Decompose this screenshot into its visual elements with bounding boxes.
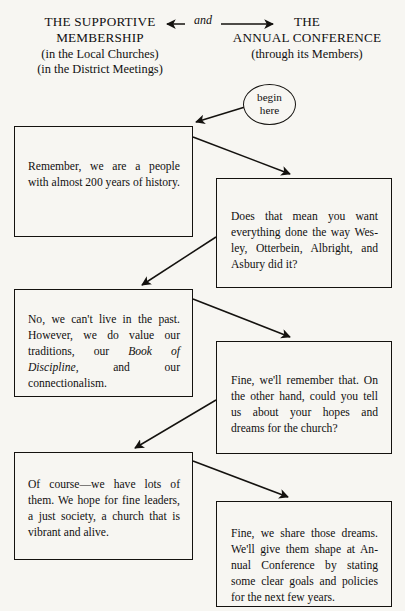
flowchart-page: THE SUPPORTIVE MEMBERSHIP (in the Local …: [0, 0, 405, 611]
flow-box-6: Fine, we share those dreams. We'll give …: [216, 501, 392, 607]
begin-here-node: begin here: [243, 84, 296, 125]
flow-box-2: Does that mean you want everything done …: [216, 178, 392, 288]
begin-here-line2: here: [244, 104, 295, 117]
header-connector-label: and: [185, 13, 221, 28]
flow-box-3: No, we can't live in the past. However, …: [14, 289, 193, 397]
header-left-line2: MEMBERSHIP: [8, 30, 192, 46]
header-right-column: THE ANNUAL CONFERENCE (through its Membe…: [214, 14, 400, 62]
flow-box-6-text: Fine, we share those dreams. We'll give …: [217, 502, 391, 606]
arrow-box4-to-box5: [135, 400, 216, 448]
arrow-box2-to-box3: [142, 237, 216, 285]
begin-here-line1: begin: [244, 91, 295, 104]
arrow-box1-to-box2: [193, 137, 290, 174]
header-right-line2: ANNUAL CONFERENCE: [214, 30, 400, 46]
flow-box-4-text: Fine, we'll remember that. On the other …: [217, 342, 391, 437]
flow-box-3-text: No, we can't live in the past. However, …: [15, 290, 192, 392]
flow-box-1-text: Remember, we are a people with almost 20…: [15, 127, 192, 191]
flow-box-4: Fine, we'll remember that. On the other …: [216, 341, 392, 454]
flow-box-2-text: Does that mean you want everything done …: [217, 179, 391, 273]
header-right-line1: THE: [214, 14, 400, 30]
arrow-box3-to-box4: [193, 299, 290, 337]
flow-box-5: Of course—we have lots of them. We hope …: [14, 452, 193, 560]
arrow-begin-to-box1: [196, 107, 245, 122]
header-left-line4: (in the District Meetings): [8, 62, 192, 77]
arrow-box5-to-box6: [193, 461, 288, 497]
header-left-column: THE SUPPORTIVE MEMBERSHIP (in the Local …: [8, 14, 192, 77]
header-left-line1: THE SUPPORTIVE: [8, 14, 192, 30]
header-right-line3: (through its Members): [214, 47, 400, 62]
header-left-line3: (in the Local Churches): [8, 47, 192, 62]
flow-box-1: Remember, we are a people with almost 20…: [14, 126, 193, 237]
flow-box-5-text: Of course—we have lots of them. We hope …: [15, 453, 192, 541]
